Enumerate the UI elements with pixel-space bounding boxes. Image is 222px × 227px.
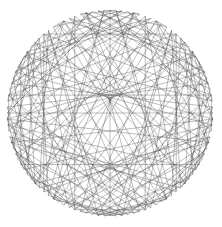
string-art-canvas <box>0 0 222 227</box>
string-art-figure <box>0 0 222 227</box>
